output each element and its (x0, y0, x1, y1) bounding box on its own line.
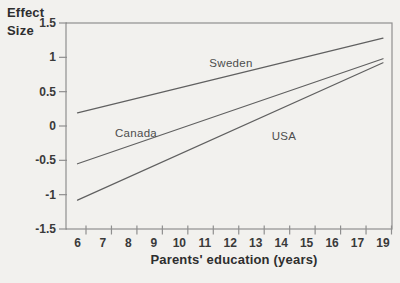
x-tick-label: 16 (325, 236, 339, 250)
x-tick-label: 8 (125, 236, 132, 250)
y-tick-label: -1.5 (35, 222, 56, 236)
series-label-sweden: Sweden (209, 57, 252, 69)
plot-border (66, 23, 392, 229)
x-tick-label: 11 (198, 236, 211, 250)
series-label-usa: USA (272, 130, 297, 142)
x-tick-label: 15 (300, 236, 314, 250)
x-tick-label: 14 (274, 236, 288, 250)
x-tick-label: 19 (376, 236, 390, 250)
figure: Effect Size 1.510.50-0.5-1-1.56789101112… (0, 0, 400, 283)
x-axis-title: Parents' education (years) (150, 252, 317, 267)
chart-canvas: 1.510.50-0.5-1-1.56789101112131415161719… (0, 0, 400, 283)
y-tick-label: 0 (49, 119, 56, 133)
x-tick-label: 17 (351, 236, 365, 250)
y-tick-label: -0.5 (35, 153, 56, 167)
y-tick-label: 1 (49, 50, 56, 64)
series-line-canada (78, 59, 384, 164)
x-tick-label: 7 (100, 236, 107, 250)
y-tick-label: 1.5 (39, 16, 56, 30)
x-tick-label: 6 (74, 236, 81, 250)
y-tick-label: 0.5 (39, 85, 56, 99)
x-tick-label: 12 (224, 236, 238, 250)
series-line-sweden (78, 38, 384, 113)
y-tick-label: -1 (45, 188, 56, 202)
x-tick-label: 9 (151, 236, 158, 250)
x-tick-label: 13 (249, 236, 263, 250)
series-label-canada: Canada (115, 127, 157, 139)
x-tick-label: 10 (173, 236, 187, 250)
